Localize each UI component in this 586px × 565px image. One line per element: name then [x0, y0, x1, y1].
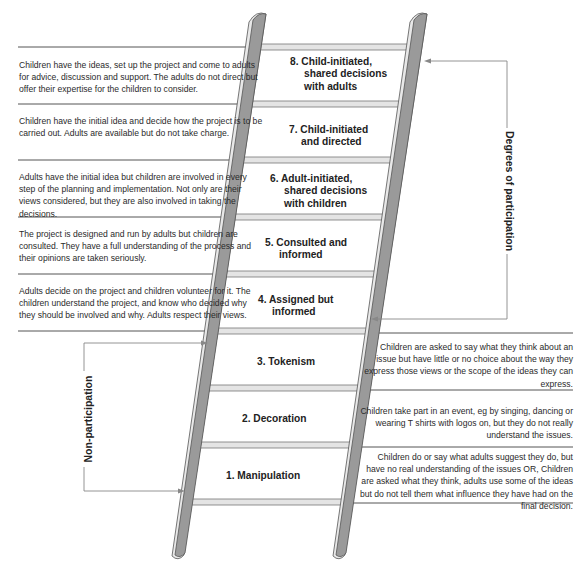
- rung-label-8: 8. Child-initiated, shared decisions wit…: [290, 56, 387, 93]
- description-level-3: Children are asked to say what they thin…: [358, 341, 573, 390]
- description-level-4: Adults decide on the project and childre…: [19, 285, 264, 322]
- rung-label-5: 5. Consulted and informed: [265, 237, 347, 262]
- description-level-5: The project is designed and run by adult…: [19, 228, 264, 265]
- rung-label-1: 1. Manipulation: [226, 470, 300, 482]
- arrow-left-icon: [424, 59, 431, 64]
- rung-label-6: 6. Adult-initiated, shared decisions wit…: [270, 173, 367, 210]
- rung-label-7: 7. Child-initiated and directed: [289, 124, 368, 149]
- rung-label-4: 4. Assigned but informed: [258, 294, 333, 319]
- non-participation-label: Non-participation: [80, 371, 96, 467]
- rung-label-2: 2. Decoration: [242, 413, 307, 425]
- description-level-6: Adults have the initial idea but childre…: [19, 171, 264, 220]
- degrees-of-participation-label: Degrees of participation: [502, 128, 518, 254]
- description-level-7: Children have the initial idea and decid…: [19, 115, 264, 139]
- rung-label-3: 3. Tokenism: [257, 356, 315, 368]
- description-level-2: Children take part in an event, eg by si…: [358, 405, 573, 442]
- description-level-1: Children do or say what adults suggest t…: [358, 451, 573, 512]
- description-level-8: Children have the ideas, set up the proj…: [19, 59, 264, 96]
